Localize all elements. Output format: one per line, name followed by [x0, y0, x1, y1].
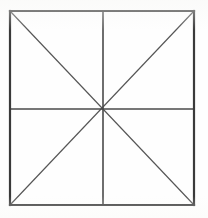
square-diagram-svg	[0, 0, 208, 218]
figure-canvas	[0, 0, 208, 218]
